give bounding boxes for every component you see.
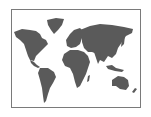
south-america-shape xyxy=(38,68,56,103)
new-zealand-shape xyxy=(132,88,137,93)
central-america-shape xyxy=(30,60,40,68)
indonesia-shape xyxy=(106,65,124,72)
world-map-icon: World map xyxy=(0,0,151,117)
australia-shape xyxy=(112,76,129,90)
madagascar-shape xyxy=(87,75,90,82)
north-america-shape xyxy=(14,29,48,61)
greenland-shape xyxy=(47,18,64,34)
africa-shape xyxy=(62,50,90,88)
india-shape xyxy=(94,52,101,64)
